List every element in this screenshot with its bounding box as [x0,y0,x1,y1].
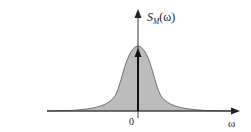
y-axis-label: SM(ω) [147,10,175,26]
origin-label: 0 [129,116,134,127]
x-axis-label: ω [228,117,235,129]
psd-diagram: SM(ω) 0 ω [0,0,251,132]
y-axis-arrow-icon [135,9,142,18]
x-axis-arrow-icon [231,108,240,115]
